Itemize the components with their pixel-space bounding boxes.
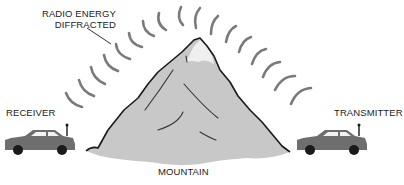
wheel-icon xyxy=(349,145,359,155)
mountain-label: MOUNTAIN xyxy=(158,166,209,177)
mountain-shape xyxy=(86,38,290,165)
wave-arc-icon xyxy=(129,33,142,47)
wheel-icon xyxy=(57,145,67,155)
wave-arc-icon xyxy=(226,26,236,42)
wave-arc-icon xyxy=(66,93,82,107)
receiver-label: RECEIVER xyxy=(6,107,55,118)
wave-arc-icon xyxy=(252,49,266,64)
diffraction-diagram: RADIO ENERGY DIFFRACTED RECEIVER TRANSMI… xyxy=(0,0,404,185)
receiver-car xyxy=(5,124,75,156)
wave-arc-icon xyxy=(91,67,105,84)
wave-arc-icon xyxy=(239,37,251,52)
radio-energy-label-line1: RADIO ENERGY xyxy=(6,8,116,19)
wave-arc-icon xyxy=(158,13,166,30)
wave-arc-icon xyxy=(291,88,311,104)
wave-arc-icon xyxy=(143,21,154,36)
wheel-icon xyxy=(305,145,315,155)
wave-arc-icon xyxy=(211,16,218,34)
radio-energy-label-line2: DIFFRACTED xyxy=(6,19,116,30)
wave-arc-icon xyxy=(263,62,280,77)
wave-arc-icon xyxy=(104,55,118,71)
wave-arc-icon xyxy=(79,80,94,96)
transmitter-label: TRANSMITTER xyxy=(334,107,403,118)
wave-arc-icon xyxy=(179,7,183,25)
transmitter-car xyxy=(297,124,367,156)
mountain xyxy=(86,38,290,165)
wave-arc-icon xyxy=(195,8,200,28)
wave-arc-icon xyxy=(116,44,130,59)
label-leader-line xyxy=(87,28,111,44)
wave-arc-icon xyxy=(275,76,295,90)
wheel-icon xyxy=(13,145,23,155)
radio-energy-label: RADIO ENERGY DIFFRACTED xyxy=(6,8,116,30)
